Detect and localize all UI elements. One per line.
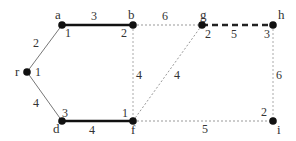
num-f: 1	[122, 106, 128, 120]
graph-svg: 2 4 3 4 6 4 4 5 6 5 r a b d	[0, 0, 296, 141]
num-a: 1	[65, 26, 71, 40]
num-r: 1	[35, 65, 41, 79]
num-g: 2	[205, 27, 211, 41]
num-d: 3	[62, 106, 68, 120]
weight-r-a: 2	[33, 36, 39, 50]
name-r: r	[15, 64, 20, 79]
node-b	[129, 21, 137, 29]
weight-g-h: 5	[231, 27, 237, 41]
name-d: d	[53, 121, 60, 136]
weight-b-g: 6	[162, 9, 168, 23]
node-h	[269, 21, 277, 29]
node-names: r a b d f g h i	[15, 7, 285, 137]
num-b: 2	[121, 26, 127, 40]
weight-b-f: 4	[136, 68, 142, 82]
edge-f-g	[133, 25, 202, 121]
weight-a-b: 3	[91, 9, 97, 23]
name-f: f	[131, 122, 136, 137]
weight-f-g: 4	[174, 68, 180, 82]
num-i: 2	[261, 105, 267, 119]
name-h: h	[278, 7, 285, 22]
weight-r-d: 4	[33, 96, 39, 110]
weight-d-f: 4	[89, 123, 95, 137]
name-g: g	[200, 7, 207, 22]
name-b: b	[128, 7, 135, 22]
weight-f-i: 5	[202, 122, 208, 136]
node-r	[23, 68, 31, 76]
node-i	[269, 117, 277, 125]
graph-diagram: 2 4 3 4 6 4 4 5 6 5 r a b d	[0, 0, 296, 141]
name-i: i	[277, 122, 281, 137]
weight-h-i: 6	[276, 68, 282, 82]
name-a: a	[55, 7, 61, 22]
num-h: 3	[264, 27, 270, 41]
